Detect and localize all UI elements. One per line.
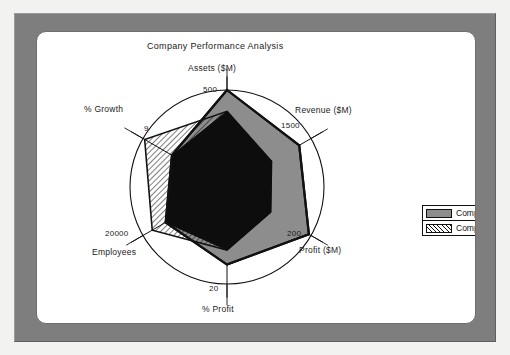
tick-label-profit: 200 <box>287 230 301 238</box>
axis-label-pct-growth: % Growth <box>84 105 123 114</box>
axis-label-employees: Employees <box>92 248 136 257</box>
tick-label-employees: 20000 <box>105 230 129 238</box>
axis-label-pct-profit: % Profit <box>202 305 234 314</box>
axis-label-profit: Profit ($M) <box>299 246 341 255</box>
axis-label-revenue: Revenue ($M) <box>295 106 352 115</box>
chart-panel: Company Performance Analysis Assets ($M)… <box>36 31 476 324</box>
legend-label-company-b: Company B <box>456 223 476 233</box>
legend-swatch-company-a <box>426 209 452 218</box>
tick-label-revenue: 1500 <box>281 122 300 130</box>
chart-legend: Company A Company B <box>422 205 476 236</box>
radar-chart <box>37 32 476 324</box>
tick-label-assets: 500 <box>203 86 217 94</box>
axis-label-assets: Assets ($M) <box>188 64 236 73</box>
legend-item-company-a[interactable]: Company A <box>423 206 476 221</box>
legend-item-company-b[interactable]: Company B <box>423 221 476 235</box>
legend-label-company-a: Company A <box>456 208 476 218</box>
legend-swatch-company-b <box>426 224 452 233</box>
chart-title: Company Performance Analysis <box>147 42 283 51</box>
screenshot-root: Company Performance Analysis Assets ($M)… <box>0 0 510 355</box>
tick-label-pct-profit: 20 <box>209 285 218 293</box>
tick-label-pct-growth: 9 <box>144 125 149 133</box>
